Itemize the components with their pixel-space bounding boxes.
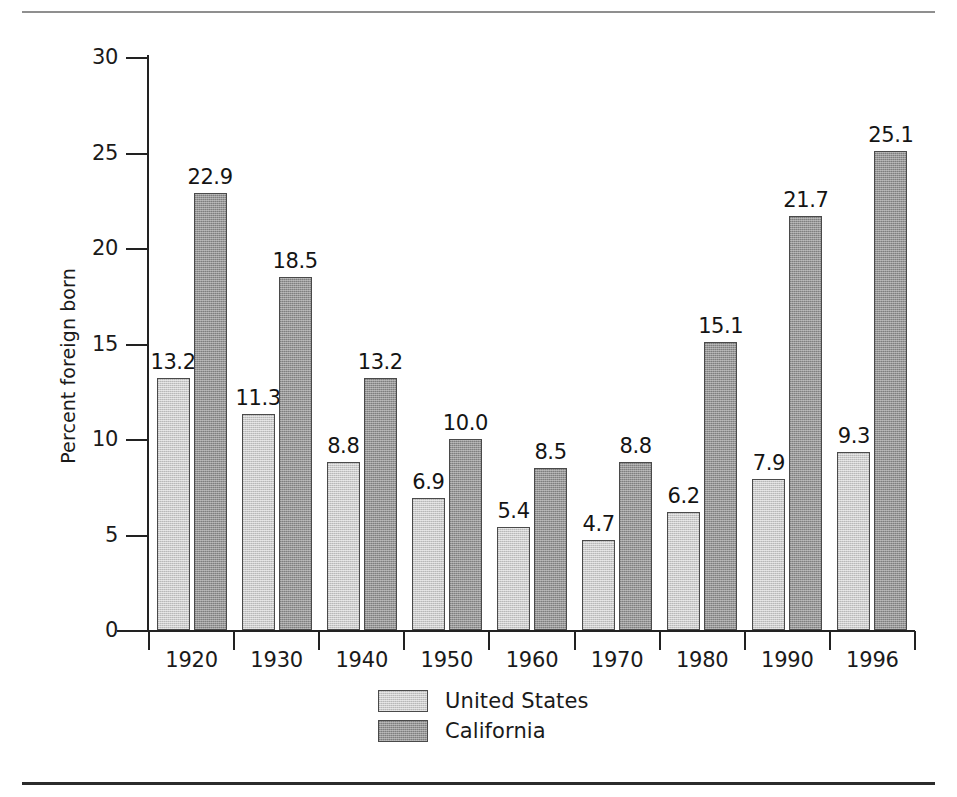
bar-value-label: 13.2 bbox=[350, 350, 411, 374]
x-axis-tick-label: 1920 bbox=[149, 648, 234, 672]
legend-item: California bbox=[378, 716, 589, 746]
bar-value-label: 22.9 bbox=[180, 165, 241, 189]
x-axis-tick-label: 1996 bbox=[830, 648, 915, 672]
bar bbox=[364, 378, 397, 630]
bar-chart-figure: Percent foreign born 051015202530 13.222… bbox=[0, 0, 957, 797]
x-axis-tick-label: 1930 bbox=[234, 648, 319, 672]
legend-label: United States bbox=[445, 689, 589, 713]
x-axis-tick-label: 1980 bbox=[660, 648, 745, 672]
bar-value-label: 25.1 bbox=[860, 123, 921, 147]
bar bbox=[412, 498, 445, 630]
bar bbox=[789, 216, 822, 630]
page-rule-bottom bbox=[22, 782, 935, 785]
x-axis-tick-label: 1960 bbox=[489, 648, 574, 672]
x-axis-line bbox=[117, 630, 915, 632]
chart-legend: United StatesCalifornia bbox=[378, 686, 589, 746]
bar bbox=[837, 452, 870, 630]
x-axis-tick-label: 1990 bbox=[745, 648, 830, 672]
bar-value-label: 15.1 bbox=[690, 314, 751, 338]
bar bbox=[582, 540, 615, 630]
x-axis-tick-label: 1940 bbox=[319, 648, 404, 672]
bar bbox=[704, 342, 737, 630]
bar bbox=[242, 414, 275, 630]
bar-value-label: 10.0 bbox=[435, 411, 496, 435]
x-axis-tick-label: 1970 bbox=[575, 648, 660, 672]
bar-value-label: 8.5 bbox=[520, 440, 581, 464]
x-axis-tick-label: 1950 bbox=[404, 648, 489, 672]
bar-value-label: 8.8 bbox=[605, 434, 666, 458]
bar-value-label: 18.5 bbox=[265, 249, 326, 273]
bar bbox=[534, 468, 567, 630]
bar bbox=[619, 462, 652, 630]
legend-item: United States bbox=[378, 686, 589, 716]
bar bbox=[194, 193, 227, 630]
bar bbox=[449, 439, 482, 630]
bars-layer: 13.222.911.318.58.813.26.910.05.48.54.78… bbox=[0, 0, 957, 630]
bar bbox=[327, 462, 360, 630]
legend-swatch bbox=[378, 720, 428, 742]
bar-value-label: 21.7 bbox=[775, 188, 836, 212]
bar bbox=[157, 378, 190, 630]
bar bbox=[667, 512, 700, 630]
bar bbox=[279, 277, 312, 630]
bar bbox=[497, 527, 530, 630]
legend-swatch bbox=[378, 690, 428, 712]
bar bbox=[874, 151, 907, 630]
legend-label: California bbox=[445, 719, 546, 743]
bar bbox=[752, 479, 785, 630]
